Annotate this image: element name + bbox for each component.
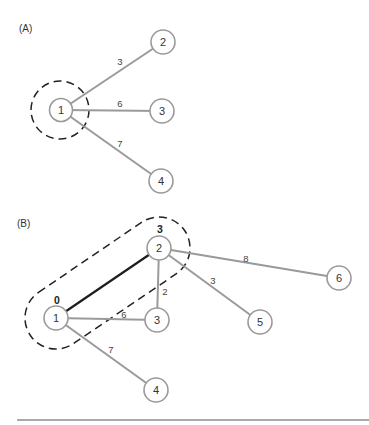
svg-text:3: 3 <box>159 105 165 117</box>
svg-text:6: 6 <box>336 272 342 284</box>
edge-weight: 6 <box>121 309 126 320</box>
edge-1-4 <box>56 318 156 390</box>
edge-weight: 8 <box>243 253 248 264</box>
edge-weight: 2 <box>162 286 167 297</box>
node-b-1: 1 <box>44 306 68 330</box>
svg-text:1: 1 <box>58 104 64 116</box>
selected-edge-1-2 <box>56 248 159 318</box>
svg-text:2: 2 <box>160 36 166 48</box>
node-a-2: 2 <box>151 30 175 54</box>
svg-text:4: 4 <box>153 384 159 396</box>
panel-a: (A) 3 6 7 1 2 3 4 <box>19 23 175 193</box>
node-b-6: 6 <box>327 266 351 290</box>
node-a-4: 4 <box>149 169 173 193</box>
edge-weight: 3 <box>210 275 215 286</box>
node-b-2: 2 <box>147 236 171 260</box>
svg-text:1: 1 <box>53 312 59 324</box>
node-b-3: 3 <box>145 308 169 332</box>
node-a-3: 3 <box>150 99 174 123</box>
svg-text:2: 2 <box>156 242 162 254</box>
distance-label: 0 <box>54 294 60 306</box>
edge-weight: 7 <box>117 138 122 149</box>
edge-1-3 <box>56 318 157 320</box>
svg-text:3: 3 <box>154 314 160 326</box>
panel-b-label: (B) <box>17 218 30 229</box>
edge-2-6 <box>159 248 339 278</box>
svg-text:4: 4 <box>158 175 164 187</box>
edge-1-2 <box>61 42 163 110</box>
distance-label: 3 <box>157 223 163 235</box>
edge-1-3 <box>61 110 162 111</box>
svg-text:5: 5 <box>257 316 263 328</box>
panel-b: (B) 6 7 2 3 8 0 3 1 2 3 4 5 6 <box>17 217 351 402</box>
edge-1-4 <box>61 110 161 181</box>
edge-weight: 7 <box>108 344 113 355</box>
edge-weight: 6 <box>117 98 122 109</box>
edge-weight: 3 <box>117 56 122 67</box>
graph-figure: (A) 3 6 7 1 2 3 4 (B) 6 7 2 3 8 0 3 1 2 … <box>0 0 369 425</box>
node-a-1: 1 <box>50 99 73 122</box>
panel-a-label: (A) <box>19 23 32 34</box>
node-b-4: 4 <box>144 378 168 402</box>
node-b-5: 5 <box>248 310 272 334</box>
